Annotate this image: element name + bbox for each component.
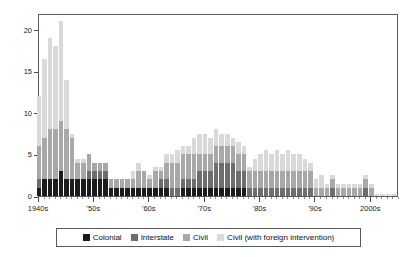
bar-column [136, 163, 141, 196]
x-axis-minor-tick [44, 197, 45, 199]
legend-item[interactable]: Colonial [83, 233, 122, 243]
bar-segment [170, 163, 175, 188]
bar-segment [258, 188, 263, 196]
bar-segment [275, 171, 280, 188]
bar-segment [253, 159, 258, 171]
x-axis-minor-tick [254, 197, 255, 199]
bar-segment [242, 146, 247, 154]
x-tick-mark [204, 197, 205, 202]
bar-column [225, 134, 230, 196]
bar-segment [75, 163, 80, 180]
x-axis-minor-tick [99, 197, 100, 199]
bar-segment [186, 154, 191, 179]
bar-segment [264, 171, 269, 188]
x-axis-minor-tick [359, 197, 360, 199]
y-tick-label: 20 [24, 26, 32, 35]
bar-column [253, 159, 258, 196]
bar-segment [308, 163, 313, 171]
x-axis-minor-tick [221, 197, 222, 199]
bar-segment [375, 194, 380, 196]
x-axis-minor-tick [154, 197, 155, 199]
bar-segment [258, 154, 263, 171]
bar-segment [330, 179, 335, 187]
bar-column [70, 134, 75, 196]
chart-figure: 05101520 1940s'50s'60s'70s'80s'90s2000s … [0, 0, 414, 257]
bar-segment [308, 171, 313, 188]
bar-segment [87, 171, 92, 179]
bar-segment [87, 154, 92, 171]
bar-column [208, 138, 213, 196]
x-axis-minor-tick [127, 197, 128, 199]
bar-column [164, 154, 169, 196]
bar-segment [253, 171, 258, 188]
x-axis-minor-tick [398, 197, 399, 199]
bar-column [269, 154, 274, 196]
bar-column [308, 163, 313, 196]
bar-segment [219, 188, 224, 196]
x-axis-minor-tick [237, 197, 238, 199]
bar-column [358, 184, 363, 196]
bar-segment [159, 179, 164, 187]
bar-column [369, 184, 374, 196]
bar-segment [98, 179, 103, 196]
bar-column [114, 179, 119, 196]
bar-column [142, 171, 147, 196]
x-axis-minor-tick [210, 197, 211, 199]
plot-area [38, 14, 398, 197]
bar-segment [53, 179, 58, 196]
bar-segment [197, 134, 202, 155]
bar-segment [208, 154, 213, 171]
bar-column [203, 134, 208, 196]
bar-column [352, 184, 357, 196]
bar-segment [170, 188, 175, 196]
bar-segment [214, 129, 219, 146]
bar-column [231, 138, 236, 196]
x-axis-minor-tick [110, 197, 111, 199]
bar-segment [347, 188, 352, 196]
y-axis: 05101520 [0, 14, 38, 197]
bar-column [48, 38, 53, 196]
x-tick-mark [93, 197, 94, 202]
legend-item[interactable]: Civil [183, 233, 208, 243]
bar-segment [59, 121, 64, 171]
bar-segment [109, 188, 114, 196]
x-axis-minor-tick [376, 197, 377, 199]
x-axis-minor-tick [138, 197, 139, 199]
bar-segment [203, 171, 208, 188]
bar-segment [203, 154, 208, 171]
bar-column [170, 154, 175, 196]
bar-segment [236, 154, 241, 171]
bar-column [59, 21, 64, 196]
x-axis-minor-tick [121, 197, 122, 199]
bar-column [159, 167, 164, 196]
bar-segment [314, 188, 319, 196]
bar-segment [181, 179, 186, 187]
x-axis-minor-tick [381, 197, 382, 199]
bar-segment [37, 96, 42, 146]
x-axis-minor-tick [165, 197, 166, 199]
x-axis-minor-tick [160, 197, 161, 199]
bar-segment [236, 142, 241, 154]
bar-segment [325, 188, 330, 196]
bar-segment [186, 146, 191, 154]
bar-segment [125, 188, 130, 196]
bar-segment [336, 188, 341, 196]
legend-item[interactable]: Civil (with foreign intervention) [217, 233, 334, 243]
x-axis-minor-tick [55, 197, 56, 199]
x-axis-minor-tick [248, 197, 249, 199]
bar-column [275, 150, 280, 196]
x-axis-minor-tick [387, 197, 388, 199]
bar-segment [269, 188, 274, 196]
bar-segment [142, 188, 147, 196]
x-axis-minor-tick [337, 197, 338, 199]
x-axis-minor-tick [176, 197, 177, 199]
bar-segment [164, 188, 169, 196]
bar-segment [153, 171, 158, 188]
bar-segment [42, 179, 47, 196]
x-axis-minor-tick [309, 197, 310, 199]
bar-column [325, 184, 330, 196]
bar-segment [242, 171, 247, 188]
x-axis-minor-tick [182, 197, 183, 199]
bar-segment [264, 150, 269, 171]
legend-item[interactable]: Interstate [131, 233, 174, 243]
